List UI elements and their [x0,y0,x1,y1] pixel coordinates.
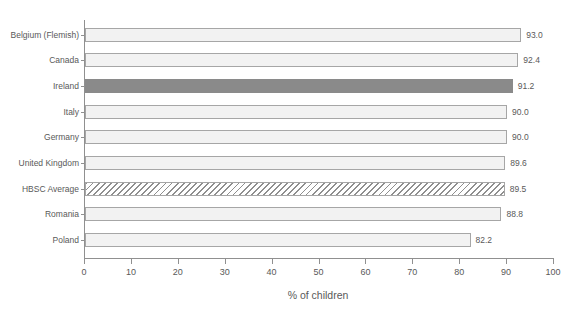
category-label: United Kingdom [0,158,79,168]
x-axis-tick [84,259,85,264]
x-axis-tick-label: 0 [69,267,99,278]
x-axis-tick-label: 60 [350,267,380,278]
x-axis-tick [225,259,226,264]
category-label: Canada [0,55,79,65]
category-label: Belgium (Flemish) [0,30,79,40]
y-axis-tick [81,214,84,215]
y-axis-tick [81,137,84,138]
category-label: HBSC Average [0,184,79,194]
x-axis-tick [178,259,179,264]
x-axis-tick-label: 10 [116,267,146,278]
x-axis-tick [319,259,320,264]
category-label: Poland [0,235,79,245]
x-axis-tick [365,259,366,264]
category-label: Germany [0,132,79,142]
x-axis-tick [459,259,460,264]
category-label: Romania [0,209,79,219]
bar-chart: % of children Belgium (Flemish)93.0Canad… [0,0,579,322]
x-axis-tick-label: 50 [304,267,334,278]
y-axis-tick [81,86,84,87]
x-axis-tick [131,259,132,264]
bar-belgium-flemish [85,28,521,42]
y-axis-tick [81,189,84,190]
y-axis-tick [81,163,84,164]
value-label: 89.6 [510,158,527,168]
x-axis-tick-label: 30 [210,267,240,278]
x-axis-tick [272,259,273,264]
x-axis-tick [412,259,413,264]
x-axis-tick-label: 40 [257,267,287,278]
bar-romania [85,207,501,221]
bar-italy [85,105,507,119]
y-axis-tick [81,60,84,61]
value-label: 93.0 [526,30,543,40]
bar-canada [85,53,518,67]
y-axis-tick [81,112,84,113]
category-label: Italy [0,107,79,117]
category-label: Ireland [0,81,79,91]
bar-united-kingdom [85,156,505,170]
value-label: 89.5 [510,184,527,194]
value-label: 88.8 [506,209,523,219]
value-label: 82.2 [476,235,493,245]
value-label: 90.0 [512,107,529,117]
y-axis-tick [81,35,84,36]
bar-hbsc-average [85,182,505,196]
x-axis-tick-label: 70 [397,267,427,278]
x-axis-tick [506,259,507,264]
value-label: 90.0 [512,132,529,142]
bar-germany [85,130,507,144]
value-label: 92.4 [523,55,540,65]
x-axis-tick [553,259,554,264]
x-axis-tick-label: 90 [491,267,521,278]
x-axis-tick-label: 20 [163,267,193,278]
x-axis-tick-label: 100 [538,267,568,278]
y-axis-tick [81,240,84,241]
bar-ireland [85,79,513,93]
bar-poland [85,233,471,247]
x-axis-title: % of children [218,289,418,302]
value-label: 91.2 [518,81,535,91]
x-axis-tick-label: 80 [444,267,474,278]
